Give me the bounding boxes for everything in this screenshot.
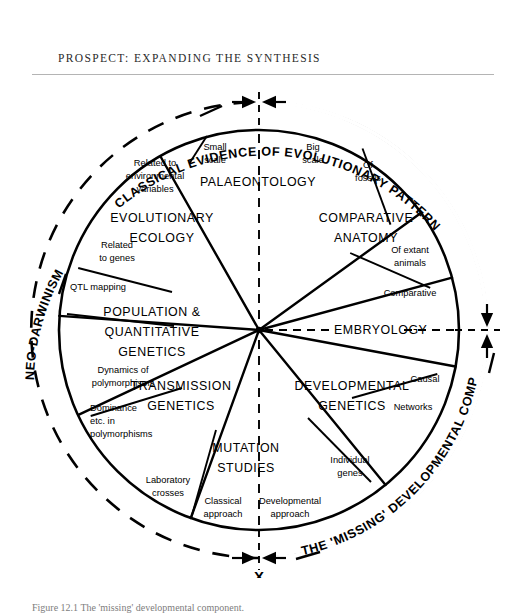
top-boundary-marker xyxy=(232,92,286,130)
sub-label-individual-genes-line1: Individual xyxy=(330,455,369,465)
sub-label-laboratory-crosses-line1: Laboratory xyxy=(146,475,191,485)
page-root: PROSPECT: EXPANDING THE SYNTHESIS xyxy=(0,0,526,616)
figure-caption: Figure 12.1 The 'missing' developmental … xyxy=(32,602,432,616)
sub-label-of-extant-line2: animals xyxy=(394,258,426,268)
sub-label-dominance-line3: polymorphisms xyxy=(90,429,153,439)
sector-label-population-genetics-line3: GENETICS xyxy=(118,345,186,359)
sector-label-population-genetics-line1: POPULATION & xyxy=(103,305,200,319)
sector-label-mutation-studies-line2: STUDIES xyxy=(217,461,275,475)
sub-label-networks: Networks xyxy=(394,402,433,412)
header-rule xyxy=(32,74,494,75)
sub-label-developmental-approach-line1: Developmental xyxy=(259,496,321,506)
x-marker-label: X xyxy=(254,568,264,578)
outer-arc-labels: CLASSICAL EVIDENCE OF EVOLUTIONARY PATTE… xyxy=(0,78,481,558)
sector-label-developmental-genetics-line2: GENETICS xyxy=(318,399,386,413)
sector-label-transmission-genetics-line2: GENETICS xyxy=(147,399,215,413)
sub-label-comparative: Comparative xyxy=(384,288,437,298)
bottom-boundary-marker xyxy=(232,530,286,570)
connector-right xyxy=(489,353,494,373)
sector-label-comparative-anatomy-line2: ANATOMY xyxy=(334,231,398,245)
sector-label-embryology: EMBRYOLOGY xyxy=(334,323,427,337)
sub-label-related-to-genes-line2: to genes xyxy=(99,253,135,263)
sub-label-qtl-mapping: QTL mapping xyxy=(70,282,126,292)
sub-label-individual-genes-line2: genes xyxy=(337,468,363,478)
sector-label-developmental-genetics-line1: DEVELOPMENTAL xyxy=(294,379,409,393)
sub-label-dynamics-line1: Dynamics of xyxy=(97,365,149,375)
sub-label-laboratory-crosses-line2: crosses xyxy=(152,488,184,498)
sub-label-dominance-line2: etc. in xyxy=(90,416,115,426)
sub-label-causal: Causal xyxy=(411,374,440,384)
running-head: PROSPECT: EXPANDING THE SYNTHESIS xyxy=(58,52,321,64)
sub-label-developmental-approach-line2: approach xyxy=(271,509,310,519)
sector-label-comparative-anatomy-line1: COMPARATIVE xyxy=(319,211,413,225)
sub-label-dynamics-line2: polymorphisms xyxy=(92,378,155,388)
right-boundary-marker xyxy=(455,304,500,358)
sub-label-classical-approach-line1: Classical xyxy=(204,496,241,506)
sub-label-related-to-genes-line1: Related xyxy=(101,240,133,250)
sector-label-evolutionary-ecology-line2: ECOLOGY xyxy=(129,231,194,245)
sector-label-evolutionary-ecology-line1: EVOLUTIONARY xyxy=(110,211,213,225)
sub-label-classical-approach-line2: approach xyxy=(204,509,243,519)
sector-label-population-genetics-line2: QUANTITATIVE xyxy=(105,325,200,339)
sector-label-mutation-studies-line1: MUTATION xyxy=(212,441,279,455)
sub-label-dominance-line1: Dominance xyxy=(90,403,137,413)
wheel-center-hub xyxy=(256,327,263,334)
sector-label-palaeontology: PALAEONTOLOGY xyxy=(200,175,316,189)
figure-wheel-diagram: X xyxy=(0,78,526,578)
sub-label-of-extant-line1: Of extant xyxy=(391,245,429,255)
